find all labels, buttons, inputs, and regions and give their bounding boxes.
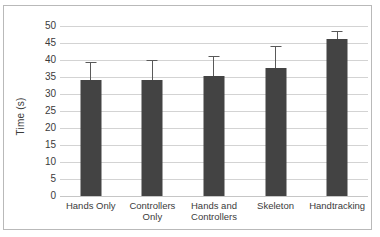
y-tick-label: 45 (30, 38, 56, 48)
error-bar-stem (275, 46, 276, 68)
error-bar-stem (90, 62, 91, 81)
error-bar-stem (213, 56, 214, 77)
error-bar (332, 31, 343, 39)
y-tick-label: 15 (30, 140, 56, 150)
y-axis-tick-labels: 50454035302520151050 (30, 21, 56, 201)
bar[interactable] (142, 80, 163, 196)
x-tick-label-line: Skeleton (246, 200, 306, 211)
x-axis-tick-labels: Hands OnlyControllersOnlyHands andContro… (60, 198, 368, 230)
x-tick-label: Hands andControllers (183, 198, 245, 230)
x-tick-label-line: Hands and (184, 200, 244, 211)
x-tick-label: Skeleton (245, 198, 307, 230)
y-tick-label: 50 (30, 21, 56, 31)
error-bar-cap (85, 62, 96, 63)
error-bar-cap (270, 46, 281, 47)
y-tick-label: 25 (30, 106, 56, 116)
y-axis-title-text: Time (s) (16, 97, 27, 135)
error-bar (85, 62, 96, 81)
error-bar (208, 56, 219, 77)
y-axis-title: Time (s) (12, 56, 30, 176)
plot-area (60, 26, 368, 196)
bar-slot (122, 26, 184, 196)
y-tick-label: 0 (30, 191, 56, 201)
error-bar (270, 46, 281, 68)
x-tick-label-line: Controllers (184, 211, 244, 222)
error-bar-cap (208, 56, 219, 57)
x-tick-label: Handtracking (306, 198, 368, 230)
chart-figure: Time (s) 50454035302520151050 Hands Only… (3, 5, 372, 230)
x-tick-label-line: Hands Only (61, 200, 121, 211)
y-tick-label: 40 (30, 55, 56, 65)
gridline (60, 196, 368, 197)
x-tick-label-line: Controllers (123, 200, 183, 211)
error-bar-stem (337, 31, 338, 39)
y-tick-label: 35 (30, 72, 56, 82)
y-tick-label: 5 (30, 174, 56, 184)
x-tick-label-line: Only (123, 211, 183, 222)
error-bar (147, 60, 158, 80)
bar-slot (60, 26, 122, 196)
y-tick-label: 10 (30, 157, 56, 167)
bar[interactable] (203, 76, 224, 196)
x-tick-label: Hands Only (60, 198, 122, 230)
bar-slot (306, 26, 368, 196)
bar-slot (183, 26, 245, 196)
bar[interactable] (327, 39, 348, 196)
x-tick-label-line: Handtracking (307, 200, 367, 211)
bar[interactable] (265, 68, 286, 196)
y-tick-label: 30 (30, 89, 56, 99)
error-bar-cap (332, 31, 343, 32)
error-bar-stem (152, 60, 153, 80)
y-tick-label: 20 (30, 123, 56, 133)
bars-layer (60, 26, 368, 196)
error-bar-cap (147, 60, 158, 61)
bar[interactable] (80, 80, 101, 196)
bar-slot (245, 26, 307, 196)
x-tick-label: ControllersOnly (122, 198, 184, 230)
